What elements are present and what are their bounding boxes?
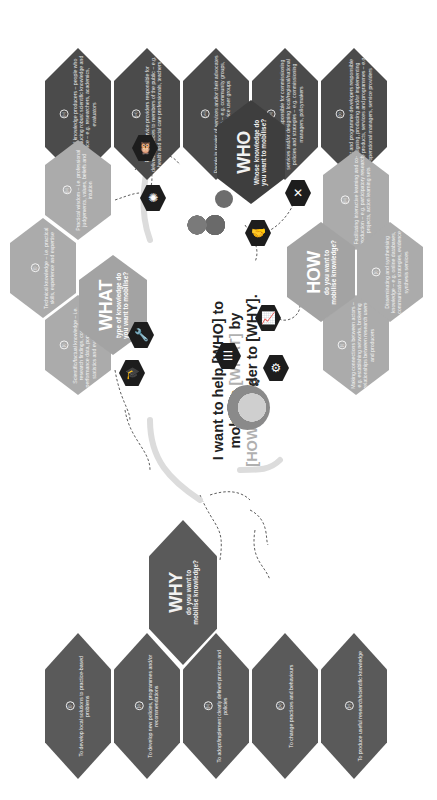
bee-icon: ✿ bbox=[250, 375, 260, 389]
headline-line-2-post: by bbox=[227, 312, 243, 333]
person-illustration-small bbox=[215, 190, 233, 208]
why-item-2-number: (ii) bbox=[135, 702, 144, 711]
what-item-2-number: (ii) bbox=[60, 341, 69, 350]
why-item-5-text: To produce useful research/scientific kn… bbox=[357, 651, 363, 761]
who-item-5-number: (x) bbox=[336, 110, 345, 119]
what-item-3-number: (iii) bbox=[63, 185, 72, 194]
who-item-1-number: (vi) bbox=[60, 110, 69, 119]
why-item-4-text: To change practices and behaviours bbox=[288, 664, 294, 747]
headline-line-1: I want to help [WHO] to bbox=[210, 300, 227, 459]
why-title: WHY bbox=[167, 572, 185, 613]
why-item-5-number: (v) bbox=[345, 701, 354, 710]
headline-block: I want to help [WHO] to mobilise [WHAT] … bbox=[105, 250, 365, 510]
why-item-3-number: (iii) bbox=[204, 702, 213, 711]
why-item-3-text: To adopt/implement clearly defined pract… bbox=[216, 646, 228, 766]
how-item-3-text: Facilitating interactive learning and co… bbox=[353, 155, 372, 245]
why-item-1-number: (i) bbox=[66, 702, 75, 711]
why-item-4-number: (iv) bbox=[276, 701, 285, 710]
what-item-3-text: Practical wisdom – i.e. professional jud… bbox=[75, 145, 94, 235]
person-illustration-group bbox=[185, 210, 225, 240]
who-subtitle-2: you want to mobilise? bbox=[260, 118, 267, 185]
how-item-3-number: (iii) bbox=[341, 195, 350, 204]
how-item-2-number: (ii) bbox=[372, 268, 381, 277]
why-item-1-text: To develop local solutions to practice-b… bbox=[78, 646, 90, 766]
who-item-2-number: (vii) bbox=[132, 109, 141, 118]
what-item-1-text: Technical knowledge – i.e. practical ski… bbox=[43, 223, 55, 313]
why-item-2-text: To develop new policies, programmes and/… bbox=[147, 646, 159, 766]
why-subtitle-2: mobilise knowledge? bbox=[192, 560, 199, 625]
who-title: WHO bbox=[235, 131, 253, 174]
person-illustration-woman-center bbox=[225, 385, 270, 430]
how-item-2-text: Disseminating and synthesising knowledge… bbox=[384, 227, 409, 317]
why-subtitle-1: do you want to bbox=[185, 570, 192, 615]
who-subtitle-1: Whose knowledge do bbox=[253, 119, 260, 184]
who-item-3-number: (viii) bbox=[201, 109, 210, 118]
what-item-1-number: (i) bbox=[31, 264, 40, 273]
